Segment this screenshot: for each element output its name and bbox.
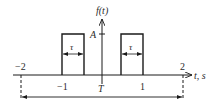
tick-label-minus-2: −2: [15, 61, 26, 72]
x-axis-label: t, s: [194, 70, 206, 81]
tick-label-2: 2: [180, 61, 185, 72]
amplitude-label: A: [89, 29, 97, 40]
pulse-width-label-right: τ: [129, 42, 133, 52]
period-label: T: [98, 83, 105, 94]
pulse-left: [62, 34, 84, 75]
pulse-train-diagram: t, s f(t) A τ τ −2 −1 T 1 2: [0, 0, 223, 107]
pulse-width-label-left: τ: [70, 42, 74, 52]
tick-label-1: 1: [140, 81, 145, 92]
pulse-right: [121, 34, 143, 75]
tick-label-minus-1: −1: [57, 81, 68, 92]
y-axis-label: f(t): [96, 5, 109, 17]
